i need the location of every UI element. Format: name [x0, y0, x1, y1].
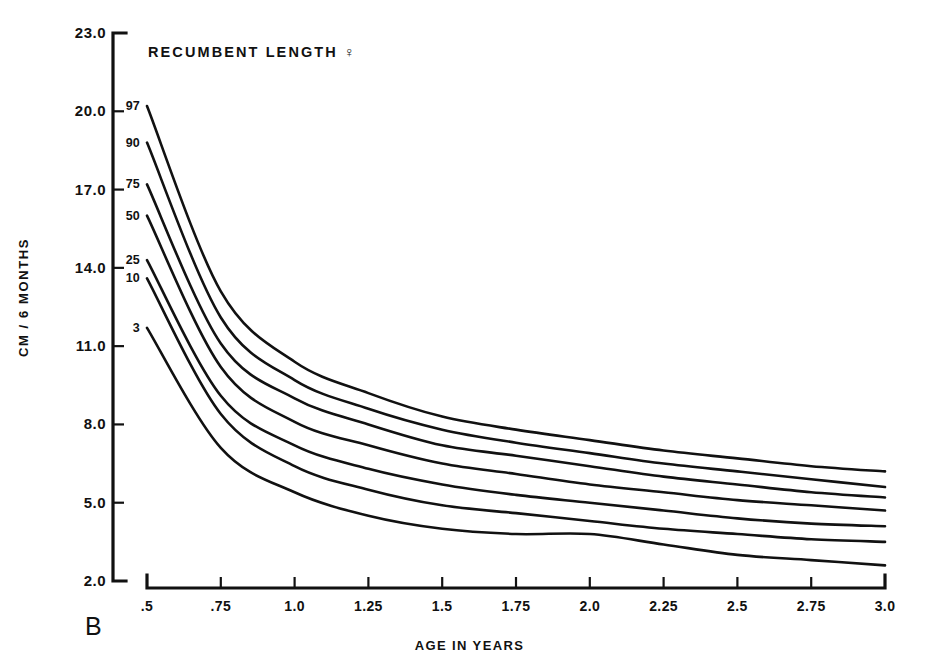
x-tick-label: 1.75	[486, 598, 546, 614]
x-tick-label: .5	[117, 598, 177, 614]
percentile-label-50: 50	[114, 209, 140, 223]
percentile-label-75: 75	[114, 177, 140, 191]
percentile-curve-50	[147, 216, 885, 511]
x-tick-label: 1.25	[338, 598, 398, 614]
percentile-label-10: 10	[114, 271, 140, 285]
y-tick-label: 11.0	[50, 337, 106, 354]
y-tick-label: 2.0	[50, 572, 106, 589]
percentile-curve-90	[147, 143, 885, 487]
percentile-label-90: 90	[114, 136, 140, 150]
x-tick-label: 3.0	[855, 598, 915, 614]
x-tick-label: 2.0	[560, 598, 620, 614]
y-tick-label: 17.0	[50, 181, 106, 198]
y-tick-label: 23.0	[50, 24, 106, 41]
percentile-curve-75	[147, 184, 885, 497]
panel-label: B	[85, 612, 102, 641]
percentile-curves	[147, 106, 885, 565]
y-tick-label: 5.0	[50, 494, 106, 511]
x-axis	[147, 575, 885, 588]
growth-velocity-figure: RECUMBENT LENGTH ♀ CM / 6 MONTHS AGE IN …	[0, 0, 939, 669]
percentile-label-25: 25	[114, 253, 140, 267]
y-tick-label: 8.0	[50, 415, 106, 432]
x-tick-label: .75	[191, 598, 251, 614]
y-axis	[113, 33, 126, 581]
chart-title: RECUMBENT LENGTH ♀	[148, 44, 357, 60]
y-tick-label: 20.0	[50, 102, 106, 119]
percentile-label-3: 3	[114, 321, 140, 335]
percentile-label-97: 97	[114, 99, 140, 113]
x-tick-label: 2.75	[781, 598, 841, 614]
percentile-curve-97	[147, 106, 885, 471]
x-tick-label: 2.25	[634, 598, 694, 614]
percentile-curve-25	[147, 260, 885, 526]
recumbent-length-velocity-chart	[0, 0, 939, 669]
y-axis-title: CM / 6 MONTHS	[16, 228, 31, 368]
x-axis-title: AGE IN YEARS	[0, 638, 939, 653]
x-tick-label: 2.5	[707, 598, 767, 614]
y-tick-label: 14.0	[50, 259, 106, 276]
x-tick-label: 1.5	[412, 598, 472, 614]
x-tick-label: 1.0	[265, 598, 325, 614]
